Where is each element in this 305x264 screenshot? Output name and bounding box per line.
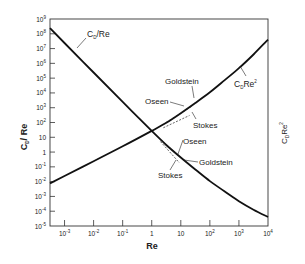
curve1-label-leader — [77, 38, 86, 48]
tick-label: 104 — [36, 88, 46, 96]
svg-text:CDRe2: CDRe2 — [279, 122, 290, 144]
chart-svg: 10-510-410-310-210-111010210310410510610… — [0, 0, 305, 264]
tick-label: 10-1 — [35, 162, 47, 170]
goldstein-upper-leader — [192, 86, 194, 98]
x-axis-title: Re — [146, 241, 158, 251]
stokes-upper-leader — [192, 112, 196, 119]
oseen-upper-leader — [170, 102, 184, 106]
annotation-goldstein-upper: Goldstein — [165, 77, 199, 86]
plot-frame — [50, 19, 268, 226]
y-axis-left-title: CD/ Re — [19, 124, 30, 150]
annotation-oseen-lower: Oseen — [183, 137, 207, 146]
tick-label: 103 — [36, 103, 46, 111]
tick-label: 10-2 — [88, 229, 100, 237]
tick-label: 10 — [177, 230, 185, 237]
curve2-label: CDRe2 — [234, 79, 257, 90]
y-axis-ticks: 10-510-410-310-210-111010210310410510610… — [35, 15, 55, 230]
tick-label: 10-1 — [117, 229, 129, 237]
tick-label: 105 — [36, 74, 46, 82]
tick-label: 103 — [234, 229, 244, 237]
stokes-lower-dash — [160, 142, 179, 163]
oseen-upper-dash — [166, 106, 192, 122]
annotation-oseen-upper: Oseen — [145, 97, 169, 106]
drag-coefficient-chart: 10-510-410-310-210-111010210310410510610… — [0, 0, 305, 264]
oseen-lower-leader — [178, 140, 183, 154]
tick-label: 109 — [36, 15, 46, 23]
tick-label: 108 — [36, 29, 46, 37]
tick-label: 10-3 — [35, 192, 47, 200]
tick-label: 10 — [39, 134, 47, 141]
tick-label: 107 — [36, 44, 46, 52]
y-axis-right-title: CDRe2 — [279, 122, 290, 144]
svg-text:CD/ Re: CD/ Re — [19, 124, 30, 150]
tick-label: 10-5 — [35, 222, 47, 230]
tick-label: 10-3 — [59, 229, 71, 237]
curves — [50, 28, 268, 217]
curve1-label: CD/Re — [87, 29, 110, 40]
annotation-goldstein-lower: Goldstein — [199, 158, 233, 167]
tick-label: 106 — [36, 59, 46, 67]
curve2-label-leader — [240, 66, 246, 76]
stokes-lower-leader — [170, 160, 176, 170]
tick-label: 1 — [150, 230, 154, 237]
tick-label: 1 — [42, 149, 46, 156]
x-axis-ticks: 10-310-210-1110102103104 — [59, 220, 273, 237]
tick-label: 10-4 — [35, 207, 47, 215]
annotation-stokes-upper: Stokes — [193, 121, 217, 130]
tick-label: 104 — [263, 229, 273, 237]
tick-label: 10-2 — [35, 177, 47, 185]
tick-label: 102 — [36, 118, 46, 126]
tick-label: 102 — [205, 229, 215, 237]
annotation-stokes-lower: Stokes — [158, 171, 182, 180]
curve-cd-over-re — [50, 28, 268, 217]
